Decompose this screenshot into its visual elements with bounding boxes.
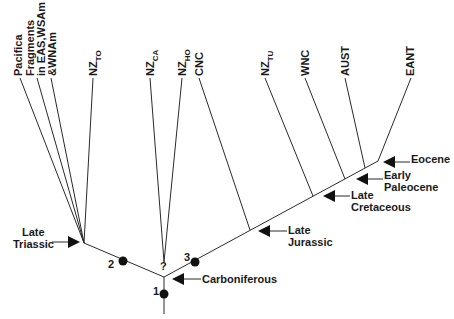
branch-nz-ho: [164, 78, 182, 262]
taxon-nz-ca: NZCA: [144, 50, 160, 76]
label-late-jurassic-2: Jurassic: [288, 236, 333, 248]
label-early-paleocene-2: Paleocene: [384, 181, 438, 193]
node-label-1: 1: [153, 285, 159, 297]
branch-pacifica: [20, 78, 84, 243]
taxon-nz-to: NZTO: [87, 50, 103, 76]
branch-fragments-1: [37, 78, 84, 243]
svg-text:CNC: CNC: [193, 52, 205, 76]
svg-text:EANT: EANT: [404, 46, 416, 76]
arrow-late-triassic-icon: [68, 236, 80, 248]
node-dot-2: [119, 257, 128, 266]
branch-nz-ca: [150, 78, 164, 262]
label-late-triassic-1: Late: [22, 226, 45, 238]
svg-text:&WNAm: &WNAm: [46, 32, 58, 76]
arrow-early-paleocene-icon: [356, 173, 368, 185]
branch-wnc: [305, 78, 345, 179]
label-carboniferous: Carboniferous: [202, 273, 277, 285]
label-early-paleocene-1: Early: [384, 169, 412, 181]
node-label-question: ?: [160, 260, 167, 272]
branch-nz-tu: [265, 78, 313, 196]
taxon-cnc: CNC: [193, 52, 205, 76]
node-label-2: 2: [108, 258, 114, 270]
taxon-nz-ho: NZHO: [176, 49, 192, 76]
svg-text:Pacifica: Pacifica: [12, 34, 24, 76]
node-dot-3: [191, 258, 200, 267]
cladogram: 1 2 3 ? Pacifica Fragments in EAS,WSAm &…: [0, 0, 454, 319]
branch-aust: [345, 78, 365, 168]
taxon-wnc: WNC: [299, 50, 311, 76]
arrow-late-cretaceous-icon: [323, 190, 335, 202]
arrow-eocene-icon: [383, 156, 395, 168]
arrow-late-jurassic-icon: [258, 225, 270, 237]
taxon-nz-tu: NZTU: [259, 50, 275, 76]
taxon-fragments-line3: &WNAm: [46, 32, 58, 76]
taxon-pacifica: Pacifica: [12, 34, 24, 76]
arrow-carboniferous-icon: [172, 273, 184, 285]
svg-text:NZTO: NZTO: [87, 50, 103, 76]
label-late-jurassic-1: Late: [288, 224, 311, 236]
branch-nz-to: [84, 78, 93, 243]
taxon-eant: EANT: [404, 46, 416, 76]
label-eocene: Eocene: [411, 153, 450, 165]
branch-cnc: [199, 78, 250, 230]
node-dot-1: [160, 290, 169, 299]
svg-text:NZTU: NZTU: [259, 50, 275, 76]
node-label-3: 3: [184, 251, 190, 263]
svg-text:NZCA: NZCA: [144, 50, 160, 76]
label-late-triassic-2: Triassic: [13, 238, 54, 250]
label-late-cretaceous-1: Late: [351, 189, 374, 201]
taxon-aust: AUST: [339, 46, 351, 76]
svg-text:NZHO: NZHO: [176, 49, 192, 76]
svg-text:WNC: WNC: [299, 50, 311, 76]
branch-eant: [378, 78, 411, 161]
branch-fragments-2: [51, 78, 84, 243]
svg-text:AUST: AUST: [339, 46, 351, 76]
label-late-cretaceous-2: Cretaceous: [351, 201, 411, 213]
